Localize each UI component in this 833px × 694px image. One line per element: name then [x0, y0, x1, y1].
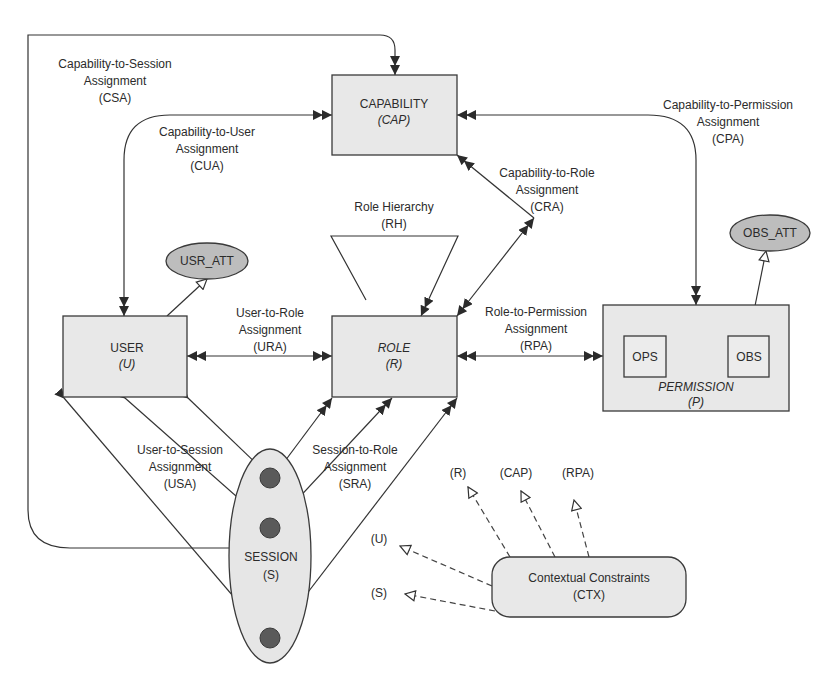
user-title: USER	[110, 341, 144, 355]
user-node: USER (U)	[63, 316, 187, 397]
ura-line2: Assignment	[239, 323, 302, 337]
sra-label: Session-to-Role Assignment (SRA)	[312, 443, 398, 491]
capability-node: CAPABILITY (CAP)	[332, 75, 457, 155]
ctx-target-r: (R)	[450, 466, 467, 480]
session-node: SESSION (S)	[229, 449, 311, 663]
cra-label: Capability-to-Role Assignment (CRA)	[499, 166, 595, 214]
ctx-edge-s	[405, 594, 495, 611]
ura-line1: User-to-Role	[236, 306, 304, 320]
usa-abbr: (USA)	[164, 477, 197, 491]
rpa-abbr: (RPA)	[520, 339, 552, 353]
ctx-edge-rpa	[574, 500, 589, 557]
rh-label: Role Hierarchy (RH)	[354, 200, 433, 231]
cua-line2: Assignment	[176, 142, 239, 156]
role-node: ROLE (R)	[332, 316, 457, 397]
sra-line1: Session-to-Role	[312, 443, 398, 457]
permission-node: OPS OBS PERMISSION (P)	[603, 305, 789, 411]
usa-label: User-to-Session Assignment (USA)	[137, 443, 223, 491]
csa-line1: Capability-to-Session	[58, 57, 171, 71]
user-abbr: (U)	[119, 357, 136, 371]
obs-att-label: OBS_ATT	[743, 226, 797, 240]
ctx-target-cap: (CAP)	[500, 466, 533, 480]
rh-abbr: (RH)	[381, 217, 406, 231]
usa-line2: Assignment	[149, 460, 212, 474]
session-title: SESSION	[244, 550, 297, 564]
ctx-abbr: (CTX)	[573, 588, 605, 602]
cua-label: Capability-to-User Assignment (CUA)	[159, 125, 255, 173]
capability-abbr: (CAP)	[378, 113, 411, 127]
ctx-target-s: (S)	[371, 586, 387, 600]
cua-abbr: (CUA)	[190, 159, 223, 173]
cra-line2: Assignment	[516, 183, 579, 197]
rh-edge	[331, 236, 458, 316]
rpa-label: Role-to-Permission Assignment (RPA)	[485, 305, 587, 353]
capability-title: CAPABILITY	[360, 97, 428, 111]
cpa-line2: Assignment	[697, 115, 760, 129]
ctx-edge-u	[400, 546, 492, 586]
sra-abbr: (SRA)	[339, 477, 372, 491]
ctx-node: Contextual Constraints (CTX)	[492, 557, 686, 617]
rh-line1: Role Hierarchy	[354, 200, 433, 214]
cra-edge	[457, 218, 534, 316]
usr-att-edge	[167, 279, 207, 316]
usa-line1: User-to-Session	[137, 443, 223, 457]
rpa-line1: Role-to-Permission	[485, 305, 587, 319]
cpa-label: Capability-to-Permission Assignment (CPA…	[663, 98, 793, 146]
csa-line2: Assignment	[84, 74, 147, 88]
rpa-line2: Assignment	[505, 322, 568, 336]
obs-label: OBS	[736, 350, 761, 364]
ctx-edge-cap	[521, 491, 555, 557]
obs-att-node: OBS_ATT	[730, 215, 810, 251]
permission-title: PERMISSION	[658, 380, 734, 394]
cpa-line1: Capability-to-Permission	[663, 98, 793, 112]
rbac-capability-diagram: CAPABILITY (CAP) USER (U) ROLE (R) OPS O…	[0, 0, 833, 694]
csa-label: Capability-to-Session Assignment (CSA)	[58, 57, 171, 105]
csa-abbr: (CSA)	[99, 91, 132, 105]
usr-att-label: USR_ATT	[180, 254, 234, 268]
role-title: ROLE	[378, 341, 412, 355]
sra-line2: Assignment	[324, 460, 387, 474]
ctx-edge-r	[468, 487, 510, 557]
cra-line1: Capability-to-Role	[499, 166, 595, 180]
ops-label: OPS	[632, 350, 657, 364]
ctx-target-u: (U)	[371, 532, 388, 546]
cua-line1: Capability-to-User	[159, 125, 255, 139]
cra-abbr: (CRA)	[530, 200, 563, 214]
ura-abbr: (URA)	[253, 340, 286, 354]
usr-att-node: USR_ATT	[166, 243, 248, 279]
cpa-abbr: (CPA)	[712, 132, 744, 146]
session-abbr: (S)	[263, 568, 279, 582]
role-abbr: (R)	[386, 357, 403, 371]
usa-edge-1	[188, 398, 262, 469]
cpa-edge	[457, 115, 696, 305]
ctx-target-rpa: (RPA)	[562, 466, 594, 480]
ctx-title: Contextual Constraints	[528, 571, 649, 585]
ura-label: User-to-Role Assignment (URA)	[236, 306, 304, 354]
permission-abbr: (P)	[688, 395, 704, 409]
